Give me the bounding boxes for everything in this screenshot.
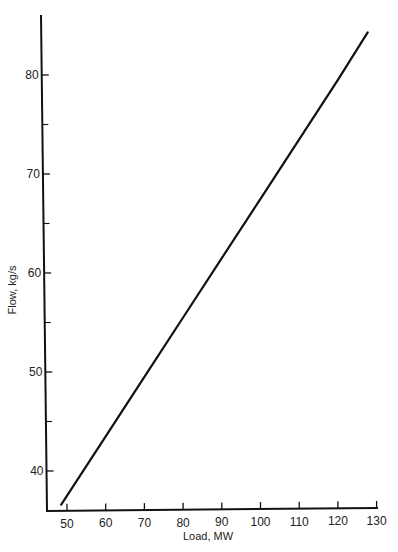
flow-vs-load-chart: 5060708090100110120130 4050607080 Load, … — [0, 0, 398, 552]
x-tick-label: 60 — [99, 516, 113, 530]
x-axis-title: Load, MW — [183, 530, 234, 542]
y-tick-label: 60 — [28, 266, 42, 280]
data-series — [61, 32, 368, 504]
x-tick-label: 100 — [250, 515, 270, 529]
x-tick-label: 50 — [60, 517, 74, 531]
y-tick-label: 50 — [29, 365, 43, 379]
y-tick-label: 70 — [27, 167, 41, 181]
y-axis-line — [41, 15, 47, 511]
x-tick-label: 110 — [290, 515, 309, 529]
x-tick-label: 130 — [367, 514, 387, 528]
flow-load-line — [61, 32, 368, 504]
x-ticks: 5060708090100110120130 — [60, 501, 387, 531]
axes — [41, 15, 378, 511]
x-tick-label: 90 — [215, 515, 229, 529]
y-ticks: 4050607080 — [25, 68, 53, 478]
x-tick-label: 120 — [328, 514, 348, 528]
y-tick-label: 80 — [25, 68, 39, 82]
y-tick-label: 40 — [30, 464, 44, 478]
x-tick-label: 70 — [138, 516, 152, 530]
y-axis-title: Flow, kg/s — [6, 265, 18, 314]
x-axis-line — [46, 508, 378, 511]
x-tick-label: 80 — [176, 516, 190, 530]
